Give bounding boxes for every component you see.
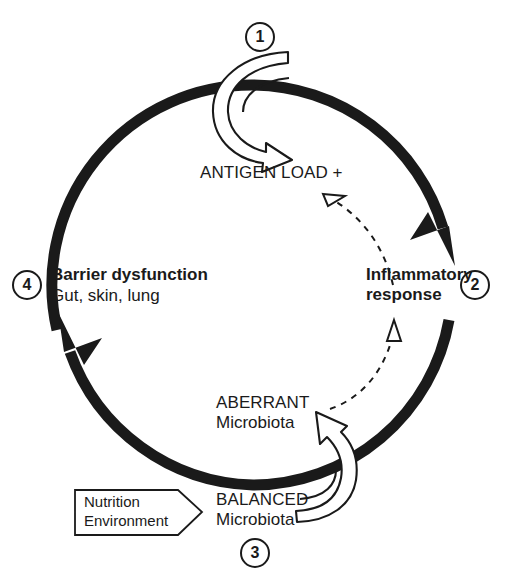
step-number-3: 3 — [240, 538, 270, 568]
aberrant-to-inflammatory-feedback-arrow — [330, 320, 401, 409]
antigen-load-inflow-arrow — [213, 52, 292, 172]
step-number-1: 1 — [245, 22, 275, 52]
step-number-4-value: 4 — [23, 276, 32, 294]
antigen-load-label: ANTIGEN LOAD + — [200, 163, 343, 182]
ring-arrowhead-to-step2 — [410, 212, 455, 266]
environment-label: Environment — [84, 512, 168, 530]
barrier-dysfunction-label: Barrier dysfunction — [51, 265, 208, 284]
balanced-microbiota-label-line2: Microbiota — [216, 510, 294, 529]
aberrant-microbiota-label-line2: Microbiota — [216, 413, 294, 432]
balanced-microbiota-label-line1: BALANCED — [216, 490, 308, 509]
ring-arrowhead-to-step4 — [58, 312, 102, 365]
step-number-3-value: 3 — [251, 544, 260, 562]
inflammatory-response-label-line1: Inflammatory — [366, 265, 473, 284]
step-number-1-value: 1 — [256, 28, 265, 46]
nutrition-label: Nutrition — [84, 493, 140, 511]
aberrant-microbiota-label-line1: ABERRANT — [216, 393, 309, 412]
inflammatory-response-label-line2: response — [366, 285, 442, 304]
barrier-dysfunction-sublabel: Gut, skin, lung — [51, 286, 160, 305]
step-number-4: 4 — [12, 270, 42, 300]
cycle-diagram: 1 2 3 4 ANTIGEN LOAD + Inflammatory resp… — [0, 0, 520, 588]
